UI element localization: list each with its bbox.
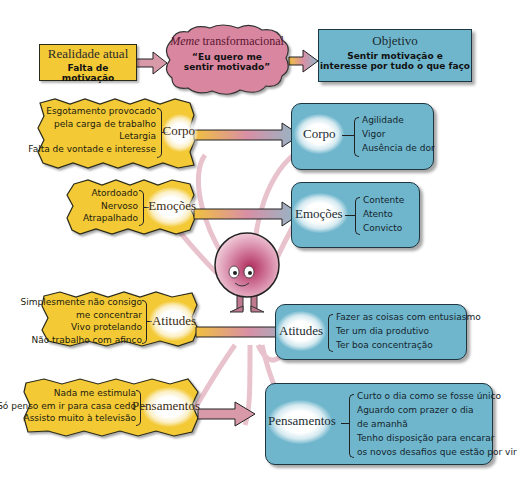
left-corpo-items: Esgotamento provocado pela carga de trab… — [28, 105, 156, 155]
meme-title: Meme transformacional — [166, 34, 288, 49]
brace-icon — [139, 190, 144, 226]
right-item: Convicto — [363, 221, 404, 235]
right-box-emocoes: Emoções Contente Atento Convicto — [291, 182, 420, 248]
meme-quote-line1: “Eu quero me — [166, 52, 288, 62]
current-reality-box: Realidade atual Falta de motivação — [39, 44, 137, 81]
left-emocoes-items: Atordoado Nervoso Atrapalhado — [83, 187, 138, 225]
left-label-corpo: Corpo — [163, 123, 196, 139]
meme-title-rest: transformacional — [200, 34, 284, 48]
right-label-pensamentos: Pensamentos — [268, 413, 336, 429]
left-group-emocoes: Atordoado Nervoso Atrapalhado Emoções — [70, 185, 194, 231]
left-item: Falta de vontade e interesse — [28, 143, 156, 156]
connector-tick — [345, 215, 355, 216]
left-atitudes-items: Simplesmente não consigo me concentrar V… — [20, 296, 142, 346]
mascot-character — [215, 233, 279, 312]
right-label-corpo: Corpo — [303, 126, 336, 142]
left-item: Vivo protelando — [20, 321, 142, 334]
right-item: Ausência de dor — [362, 141, 435, 155]
left-label-emocoes: Emoções — [148, 198, 196, 214]
right-item: Fazer as coisas com entusiasmo — [336, 310, 481, 324]
brace-icon — [142, 300, 147, 344]
left-item: Esgotamento provocado — [28, 105, 156, 118]
left-item: Simplesmente não consigo — [20, 296, 142, 309]
left-group-atitudes: Simplesmente não consigo me concentrar V… — [42, 297, 197, 345]
right-item: Ter boa concentração — [336, 338, 481, 352]
goal-box: Objetivo Sentir motivação e interesse po… — [318, 29, 472, 82]
right-emocoes-items: Contente Atento Convicto — [363, 193, 404, 235]
brace-icon — [354, 117, 359, 157]
brace-icon — [349, 394, 354, 458]
left-pensamentos-items: Nada me estimula Só penso em ir para cas… — [0, 387, 136, 425]
right-pensamentos-items: Curto o dia como se fosse único Aguardo … — [357, 389, 517, 459]
right-item: de amanhã — [357, 417, 517, 431]
right-item: Vigor — [362, 127, 435, 141]
right-item: Agilidade — [362, 113, 435, 127]
left-item: Atrapalhado — [83, 212, 138, 225]
right-item: Atento — [363, 207, 404, 221]
right-box-atitudes: Atitudes Fazer as coisas com entusiasmo … — [275, 304, 467, 360]
right-atitudes-items: Fazer as coisas com entusiasmo Ter um di… — [336, 310, 481, 352]
left-group-pensamentos: Nada me estimula Só penso em ir para cas… — [24, 384, 198, 432]
left-item: me concentrar — [20, 309, 142, 322]
left-item: Letargia — [28, 130, 156, 143]
right-item: Ter um dia produtivo — [336, 324, 481, 338]
right-item: os novos desafios que estão por vir — [357, 445, 517, 459]
goal-line2: interesse por tudo o que faço — [319, 61, 471, 71]
meme-cloud: Meme transformacional “Eu quero me senti… — [166, 34, 288, 72]
right-item: Contente — [363, 193, 404, 207]
meme-title-italic: Meme — [170, 34, 199, 48]
right-item: Curto o dia como se fosse único — [357, 389, 517, 403]
brace-icon — [355, 197, 360, 235]
current-reality-subtitle: Falta de motivação — [40, 63, 136, 83]
left-item: Assisto muito à televisão — [0, 412, 136, 425]
connector-tick — [341, 423, 349, 424]
right-box-pensamentos: Pensamentos Curto o dia como se fosse ún… — [265, 383, 493, 465]
goal-line1: Sentir motivação e — [319, 51, 471, 61]
right-item: Tenho disposição para encarar — [357, 431, 517, 445]
connector-tick — [342, 135, 354, 136]
right-box-corpo: Corpo Agilidade Vigor Ausência de dor — [291, 103, 434, 170]
left-group-corpo: Esgotamento provocado pela carga de trab… — [40, 104, 194, 164]
brace-icon — [328, 314, 333, 352]
right-label-atitudes: Atitudes — [279, 323, 323, 339]
right-label-emocoes: Emoções — [295, 206, 343, 222]
left-item: Nada me estimula — [0, 387, 136, 400]
left-item: Atordoado — [83, 187, 138, 200]
left-item: Não trabalho com afinco — [20, 334, 142, 347]
left-label-pensamentos: Pensamentos — [132, 398, 200, 414]
left-label-atitudes: Atitudes — [152, 313, 196, 329]
right-item: Aguardo com prazer o dia — [357, 403, 517, 417]
left-item: Nervoso — [83, 200, 138, 213]
goal-title: Objetivo — [319, 33, 471, 49]
meme-quote-line2: sentir motivado” — [166, 62, 288, 72]
left-item: Só penso em ir para casa cedo — [0, 400, 136, 413]
current-reality-title: Realidade atual — [40, 46, 136, 62]
left-item: pela carga de trabalho — [28, 118, 156, 131]
right-corpo-items: Agilidade Vigor Ausência de dor — [362, 113, 435, 155]
